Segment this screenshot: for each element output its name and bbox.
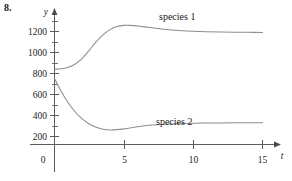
y-tick-label-800: 800	[33, 69, 48, 79]
y-tick-label-600: 600	[33, 90, 48, 100]
figure-page: 8.	[0, 0, 292, 181]
y-tick-label-1200: 1200	[28, 27, 47, 37]
y-tick-label-1000: 1000	[28, 48, 47, 58]
y-tick-label-400: 400	[33, 111, 48, 121]
y-tick-label-200: 200	[33, 132, 48, 142]
x-axis-title: t	[281, 151, 284, 161]
curve-species-1	[55, 25, 263, 69]
x-tick-label-5: 5	[122, 155, 127, 165]
plot-figure: 1200 1000 800 600 400 200 0 5 10 15 y t …	[0, 0, 292, 181]
y-axis-arrow-icon	[52, 8, 58, 15]
series-label-species-1: species 1	[159, 11, 195, 22]
y-axis-title: y	[43, 7, 49, 17]
x-axis-arrow-icon	[274, 142, 281, 148]
x-tick-label-15: 15	[258, 155, 268, 165]
series-label-species-2: species 2	[156, 116, 192, 127]
x-tick-label-10: 10	[189, 155, 199, 165]
x-tick-label-0: 0	[41, 155, 46, 165]
